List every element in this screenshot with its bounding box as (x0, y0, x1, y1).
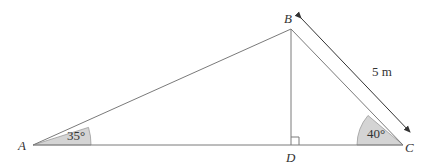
angle-c-label: 40° (367, 126, 385, 141)
vertex-label-b: B (284, 11, 292, 26)
length-bc-label: 5 m (372, 64, 392, 79)
triangle-diagram: A B C D 35° 40° 5 m (0, 0, 427, 165)
dimension-arrow-bc (301, 18, 410, 132)
right-angle-marker (291, 137, 299, 145)
vertex-label-d: D (285, 150, 296, 165)
side-bc (291, 29, 403, 145)
angle-a-label: 35° (67, 128, 85, 143)
vertex-label-a: A (17, 138, 26, 153)
diagram-svg: A B C D 35° 40° 5 m (0, 0, 427, 165)
vertex-label-c: C (405, 140, 414, 155)
